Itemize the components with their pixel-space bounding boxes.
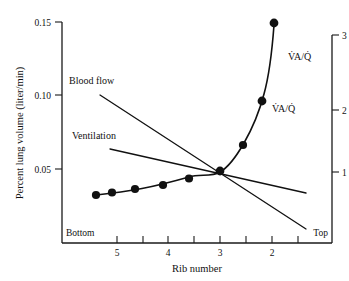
data-point-5 bbox=[185, 174, 193, 182]
data-point-4 bbox=[159, 181, 167, 189]
y-axis-title: Percent lung volume (liter/min) bbox=[14, 66, 26, 199]
data-point-2 bbox=[108, 188, 116, 196]
ventilation-line bbox=[110, 149, 306, 193]
va-q-label-upper: V̇A/Q̇ bbox=[288, 51, 312, 62]
right-tick-label-1: 2 bbox=[342, 106, 347, 116]
chart-svg: 0.15 0.10 0.05 Percent lung volume (lite… bbox=[0, 0, 349, 281]
lung-ventilation-perfusion-figure: 0.15 0.10 0.05 Percent lung volume (lite… bbox=[0, 0, 349, 281]
bottom-of-lung-marker: Bottom bbox=[66, 228, 95, 238]
right-tick-label-0: 3 bbox=[342, 31, 347, 41]
left-tick-label-1: 0.10 bbox=[34, 91, 51, 101]
x-tick-label-3: 2 bbox=[270, 248, 275, 258]
left-tick-label-2: 0.05 bbox=[34, 165, 51, 175]
data-point-7 bbox=[239, 141, 247, 149]
va-q-label-lower: V̇A/Q̇ bbox=[272, 103, 296, 114]
left-tick-label-0: 0.15 bbox=[34, 18, 51, 28]
data-point-8 bbox=[258, 97, 267, 106]
va-q-data-points bbox=[92, 19, 279, 199]
blood-flow-label: Blood flow bbox=[69, 75, 115, 86]
blood-flow-line bbox=[100, 95, 306, 229]
x-tick-label-1: 4 bbox=[166, 248, 171, 258]
data-point-6 bbox=[216, 167, 225, 176]
data-point-1 bbox=[92, 191, 100, 199]
right-tick-label-2: 1 bbox=[342, 168, 347, 178]
data-point-9 bbox=[270, 19, 279, 28]
x-tick-label-0: 5 bbox=[115, 248, 120, 258]
ventilation-label: Ventilation bbox=[72, 130, 116, 141]
top-of-lung-marker: Top bbox=[313, 228, 328, 238]
x-tick-label-2: 3 bbox=[218, 248, 223, 258]
bottom-axis-ticks bbox=[117, 236, 298, 243]
x-axis-title: Rib number bbox=[172, 263, 222, 274]
right-axis-ticks bbox=[332, 35, 339, 172]
data-point-3 bbox=[131, 185, 139, 193]
left-axis-ticks bbox=[55, 22, 62, 169]
